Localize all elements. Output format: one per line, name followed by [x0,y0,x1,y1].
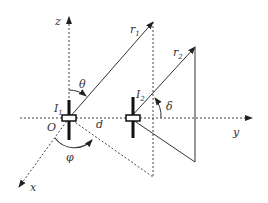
separation-label: d [96,118,103,131]
z-axis-label: z [54,15,61,28]
dipole-1 [62,100,76,140]
dipole-2 [126,97,140,138]
i1-label: I1 [53,102,63,117]
i2-label: I2 [135,88,145,103]
x-axis [19,118,69,187]
r2-ground [130,118,195,162]
r1-ground-projection [69,118,153,177]
r2-label: r2 [173,46,183,61]
r2-ray [130,47,195,118]
phi-label: φ [66,151,74,164]
y-axis-label: y [232,126,240,139]
theta-label: θ [79,78,86,91]
r1-ray [69,22,153,118]
delta-label: δ [166,100,173,113]
origin-label: O [47,121,56,134]
phi-arc [55,138,92,148]
delta-arc [155,98,161,118]
r1-label: r1 [130,23,140,38]
dipole-geometry-diagram: z y x O θ φ δ d I1 I2 r1 r2 [0,0,268,203]
x-axis-label: x [30,181,37,194]
